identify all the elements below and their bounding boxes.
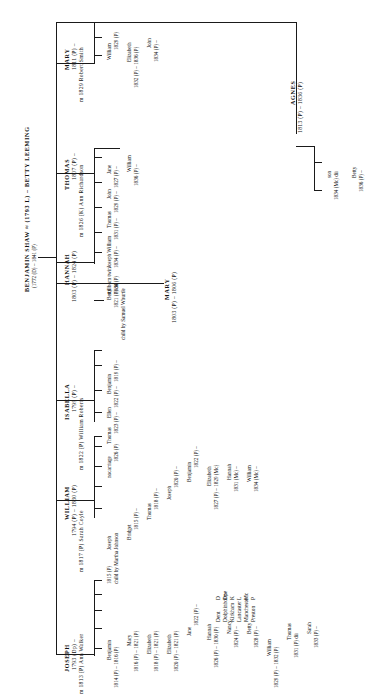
isabella-child1-name: Benjamin — [107, 374, 113, 394]
person-mary1811-name: MARY — [64, 48, 71, 70]
isabella-child2-stub — [94, 390, 102, 391]
person-joseph-name: JOSEPH — [64, 644, 71, 672]
thomas-drop — [70, 173, 94, 174]
joseph-child6-dates: 1826 (P) – 1830 (P) — [214, 627, 220, 668]
agnes-child1-stub — [314, 162, 322, 163]
joseph-drop — [70, 654, 94, 655]
joseph-child6-name: Hannah — [207, 624, 213, 640]
william-child1-dates: 1815 (P) — [107, 566, 113, 584]
legend-place-2: Kirkham — [229, 603, 235, 622]
joseph-child5-name: Jane — [187, 627, 193, 636]
joseph-child4-stub — [94, 594, 102, 595]
thomas-child6-stub — [94, 148, 120, 149]
isabella-child2-name: Ellen — [107, 407, 113, 418]
mary1811-child1-stub — [94, 37, 102, 38]
joseph-child2-name: Mary — [127, 635, 133, 646]
hannah-children-bar — [94, 258, 95, 264]
william-child3-name: Thomas — [147, 503, 153, 520]
agnes-child2-stub — [314, 190, 322, 191]
thomas-child2-name: John — [107, 189, 113, 199]
person-william-name: WILLIAM — [64, 486, 71, 520]
root-title-line1: BENJAMIN SHAW ≈ (1793 L) – BETTY LEEMING — [24, 126, 31, 292]
joseph-children-bar — [94, 580, 95, 656]
william-child1-stub — [94, 508, 102, 509]
thomas-child4-dates: 1834 (P) – — [114, 246, 120, 268]
thomas-child2-dates: 1829 (P) – — [114, 191, 120, 213]
william-child6-dates: 1827 (P) – 1829 (Mc) — [214, 465, 220, 510]
thomas-child3-stub — [94, 207, 102, 208]
joseph-child8-name: Betty — [247, 623, 253, 634]
isabella-child3-stub — [94, 412, 102, 413]
person-mary1803-dates: 1803 (P) – 1806 (P) — [171, 272, 177, 323]
william-child7-name: Hannah — [227, 464, 233, 480]
person-hannah-dates: 1803 (P) – 1824 (P) — [71, 251, 77, 302]
mary1811-drop — [70, 63, 94, 64]
william-child2-stub — [94, 486, 102, 487]
isabella-child1-dates: 1819 (P) – — [114, 360, 120, 382]
root-title-line2: (1772 (D) – 1841 (P) — [32, 244, 38, 288]
person-thomas-name: THOMAS — [64, 159, 71, 190]
joseph-child10-dates: 1831 (P) dii — [294, 633, 300, 658]
thomas-child1-dates: 1827 (P) – — [114, 166, 120, 188]
thomas-children-bar — [94, 148, 95, 258]
thomas-child3-name: Thomas — [107, 211, 113, 228]
hannah-drop — [70, 262, 94, 263]
agnes-child-spine — [296, 22, 297, 134]
agnes-child1-name: son — [327, 171, 333, 178]
thomas-child6-name: William — [127, 155, 133, 172]
joseph-child2-dates: 1816 (P) – 1821 (P) — [134, 631, 140, 672]
joseph-child3-stub — [94, 610, 102, 611]
hannah-child1-note: child by Samuel Whurtle — [121, 288, 127, 340]
agnes-child2-dates: 1836 (P) – — [359, 170, 365, 192]
mary1811-child1-dates: 1829 (P) — [114, 32, 120, 50]
isabella-child3-dates: 1823 (P) – — [114, 412, 120, 434]
isabella-child2-dates: 1822 (P) – — [114, 386, 120, 408]
joseph-children-rail — [94, 580, 95, 584]
stub-agnes — [56, 22, 296, 23]
legend-place-5: Preston — [250, 606, 256, 622]
william-drop — [70, 500, 94, 501]
thomas-child3-dates: 1831 (P) – — [114, 218, 120, 240]
hannah-child1-stub — [94, 300, 104, 301]
joseph-child1-stub — [94, 648, 102, 649]
joseph-child5-stub — [94, 580, 102, 581]
william-child3-stub — [94, 466, 102, 467]
joseph-child11-dates: 1833 (P) – — [314, 626, 320, 648]
person-mary1811-marriage: m 1829 Robert Smith — [78, 47, 84, 102]
person-mary1803-name: MARY — [164, 278, 171, 300]
hannah-child1-dates: 1821 (P) dii — [114, 283, 120, 308]
person-agnes-dates: 1813 (P) – 1836 (P) — [297, 82, 303, 133]
thomas-child4-name: Joseph William — [107, 236, 113, 268]
legend-key-0: D — [215, 596, 221, 600]
isabella-child4-name: nocarriage — [107, 456, 113, 478]
legend-place-1: Dolphinholme — [222, 591, 228, 622]
william-child7-dates: 1831 (Mc) – — [234, 466, 240, 492]
william-child2-name: Bridget — [127, 524, 133, 540]
agnes-child1-dates: 1834 (Mc) dii — [334, 171, 340, 200]
william-child8-name: William — [247, 465, 253, 482]
legend-key-2: K — [229, 596, 235, 600]
joseph-child7-dates: 1824 (P) – — [234, 626, 240, 648]
isabella-child3-name: Thomas — [107, 427, 113, 444]
person-isabella-dates: 1799 (P) – — [71, 385, 77, 412]
joseph-child8-dates: 1828 (P) – — [254, 626, 260, 648]
thomas-child5-stub — [94, 252, 102, 253]
root-stem — [38, 257, 56, 258]
mary1811-child3-name: John — [147, 38, 153, 48]
person-isabella-marriage: m 1822 (P) William Roberts — [78, 398, 84, 470]
joseph-child11-name: Sarah — [307, 622, 313, 634]
family-tree-diagram: BENJAMIN SHAW ≈ (1793 L) – BETTY LEEMING… — [0, 0, 388, 696]
person-joseph-marriage: m 1813 (P) Ann Walker — [78, 633, 84, 694]
joseph-child3-dates: 1818 (P) – 1821 (P) — [154, 631, 160, 672]
person-hannah-name: HANNAH — [64, 254, 71, 285]
william-child4-stub — [94, 446, 102, 447]
william-child4-name: Joseph — [167, 486, 173, 500]
william-child5-name: Benjamin — [187, 462, 193, 482]
person-isabella-name: ISABELLA — [64, 384, 71, 420]
person-thomas-dates: 1807 (P) – — [71, 153, 77, 180]
mary1811-child2-stub — [94, 55, 102, 56]
generation-spine — [56, 22, 57, 654]
joseph-child7-name: Nancy — [227, 620, 233, 634]
thomas-child6-dates: 1836 (P) – — [134, 164, 140, 186]
joseph-child3-name: Elizabeth — [147, 634, 153, 654]
